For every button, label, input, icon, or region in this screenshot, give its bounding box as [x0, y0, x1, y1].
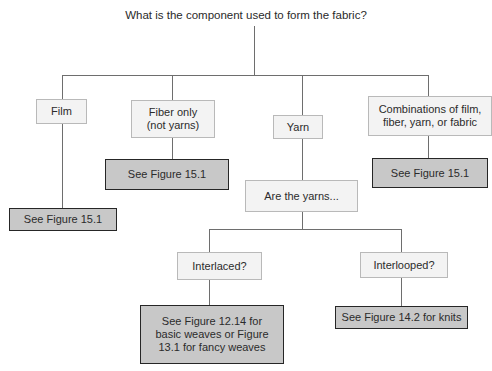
node-film-reference: See Figure 15.1 [9, 208, 117, 231]
flowchart: What is the component used to form the f… [0, 0, 492, 371]
connector-interlaced-ref [209, 280, 210, 305]
node-combinations-reference: See Figure 15.1 [372, 158, 488, 188]
connector-combinations-ref [428, 136, 429, 158]
connector-yarn-down [302, 139, 303, 180]
node-yarn: Yarn [273, 115, 323, 139]
connector-to-fiber [172, 75, 173, 100]
node-combinations: Combinations of film, fiber, yarn, or fa… [368, 96, 492, 136]
node-interlaced-reference: See Figure 12.14 for basic weaves or Fig… [140, 305, 284, 364]
node-interlaced: Interlaced? [177, 252, 262, 280]
connector-film-ref [62, 123, 63, 208]
connector-to-yarn [302, 75, 303, 115]
connector-root-down [254, 26, 255, 75]
connector-level2-horizontal [209, 229, 402, 230]
node-fiber-reference: See Figure 15.1 [105, 159, 229, 190]
connector-to-film [62, 75, 63, 99]
connector-to-interlaced [209, 229, 210, 252]
node-interlooped-reference: See Figure 14.2 for knits [335, 306, 468, 329]
connector-level1-horizontal [62, 75, 429, 76]
connector-fiber-ref [172, 138, 173, 159]
connector-to-interlooped [401, 229, 402, 252]
connector-interlooped-ref [401, 278, 402, 306]
node-interlooped: Interlooped? [360, 252, 448, 278]
node-are-the-yarns: Are the yarns... [245, 180, 358, 212]
node-film: Film [36, 99, 87, 124]
root-question: What is the component used to form the f… [0, 9, 492, 21]
node-fiber-only: Fiber only (not yarns) [131, 100, 215, 138]
connector-are-yarns-down [302, 212, 303, 229]
connector-to-combinations [428, 75, 429, 96]
